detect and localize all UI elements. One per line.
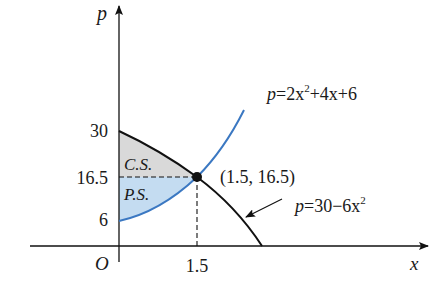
demand-equation: p=30−6x2: [293, 194, 366, 216]
equilibrium-point: [192, 172, 202, 182]
equilibrium-label: (1.5, 16.5): [220, 167, 295, 188]
y-tick-30: 30: [90, 121, 108, 141]
y-tick-6: 6: [99, 210, 108, 230]
x-tick-1-5: 1.5: [186, 256, 209, 276]
y-axis-label: p: [95, 2, 107, 25]
demand-label-pointer: [246, 199, 282, 217]
producers-surplus-label: P.S.: [123, 185, 149, 204]
surplus-chart: p x O 30 16.5 6 1.5 C.S. P.S. (1.5, 16.5…: [0, 0, 431, 307]
consumers-surplus-label: C.S.: [124, 155, 152, 174]
x-axis-label: x: [409, 253, 419, 274]
origin-label: O: [95, 253, 109, 274]
y-tick-16-5: 16.5: [77, 168, 109, 188]
supply-equation: p=2x2+4x+6: [265, 82, 357, 104]
